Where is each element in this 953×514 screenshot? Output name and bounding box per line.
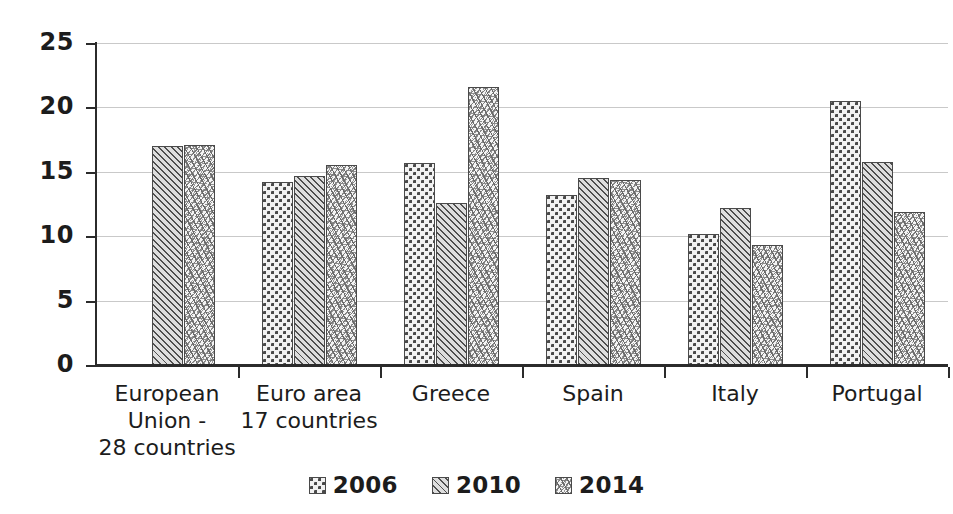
- gridline-10: [96, 236, 948, 237]
- x-tick-5: [948, 367, 950, 378]
- chart-legend: 200620102014: [0, 472, 953, 498]
- bar-2014-0: [184, 145, 215, 365]
- plot-area: [96, 43, 948, 365]
- y-tick-label-0: 0: [8, 350, 74, 378]
- y-tick-label-25: 25: [8, 28, 74, 56]
- bar-2010-4: [720, 208, 751, 365]
- x-tick-0: [238, 367, 240, 378]
- legend-item-2010[interactable]: 2010: [432, 472, 521, 498]
- x-axis-label-4: Italy: [658, 380, 812, 407]
- y-tick-label-5: 5: [8, 286, 74, 314]
- x-axis-label-5: Portugal: [800, 380, 953, 407]
- legend-item-2014[interactable]: 2014: [555, 472, 644, 498]
- bar-2006-3: [546, 195, 577, 365]
- bar-2014-2: [468, 87, 499, 365]
- y-tick-20: [86, 107, 96, 109]
- y-tick-label-15: 15: [8, 157, 74, 185]
- x-tick-4: [806, 367, 808, 378]
- y-tick-25: [86, 43, 96, 45]
- x-tick-1: [380, 367, 382, 378]
- x-tick-2: [522, 367, 524, 378]
- bar-2010-1: [294, 176, 325, 365]
- bar-2010-3: [578, 178, 609, 365]
- bar-2006-2: [404, 163, 435, 365]
- y-tick-10: [86, 236, 96, 238]
- x-axis-label-0: European Union - 28 countries: [90, 380, 244, 461]
- legend-label-2014: 2014: [579, 472, 644, 498]
- gridline-25: [96, 43, 948, 44]
- legend-label-2006: 2006: [333, 472, 398, 498]
- x-axis-label-3: Spain: [516, 380, 670, 407]
- y-tick-5: [86, 301, 96, 303]
- y-tick-0: [86, 365, 96, 367]
- bar-2006-1: [262, 182, 293, 365]
- bar-2006-5: [830, 101, 861, 365]
- x-axis-label-2: Greece: [374, 380, 528, 407]
- legend-swatch-2014: [555, 477, 572, 494]
- y-axis-line: [95, 42, 97, 367]
- gridline-15: [96, 172, 948, 173]
- y-tick-15: [86, 172, 96, 174]
- gridline-5: [96, 301, 948, 302]
- x-tick-3: [664, 367, 666, 378]
- legend-label-2010: 2010: [456, 472, 521, 498]
- y-tick-label-10: 10: [8, 221, 74, 249]
- legend-item-2006[interactable]: 2006: [309, 472, 398, 498]
- y-tick-label-20: 20: [8, 92, 74, 120]
- legend-swatch-2006: [309, 477, 326, 494]
- bar-2014-4: [752, 245, 783, 365]
- bar-chart: 0510152025 European Union - 28 countries…: [0, 0, 953, 514]
- bar-2014-3: [610, 180, 641, 365]
- x-axis-label-1: Euro area 17 countries: [232, 380, 386, 434]
- gridline-20: [96, 107, 948, 108]
- bar-2006-4: [688, 234, 719, 365]
- legend-swatch-2010: [432, 477, 449, 494]
- bar-2010-5: [862, 162, 893, 366]
- bar-2010-2: [436, 203, 467, 365]
- bar-2014-1: [326, 165, 357, 365]
- bar-2014-5: [894, 212, 925, 365]
- bar-2010-0: [152, 146, 183, 365]
